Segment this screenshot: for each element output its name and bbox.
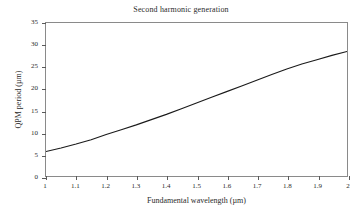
- x-axis-tick: [198, 176, 199, 180]
- series-line-qpm-period: [46, 23, 347, 176]
- chart-title: Second harmonic generation: [0, 5, 362, 14]
- y-axis-tick: [42, 112, 46, 113]
- y-axis-tick: [42, 134, 46, 135]
- y-axis-tick: [42, 67, 46, 68]
- x-axis-tick: [107, 176, 108, 180]
- x-axis-tick: [167, 176, 168, 180]
- x-axis-tick: [288, 176, 289, 180]
- x-axis-tick: [46, 176, 47, 180]
- y-axis-tick-label: 10: [0, 129, 38, 137]
- y-axis-tick-label: 5: [0, 151, 38, 159]
- x-axis-tick: [228, 176, 229, 180]
- x-axis-tick-label: 1.3: [121, 182, 151, 190]
- x-axis-tick: [76, 176, 77, 180]
- x-axis-tick-label: 1.8: [272, 182, 302, 190]
- y-axis-tick-label: 25: [0, 62, 38, 70]
- plot-frame: [45, 22, 348, 177]
- x-axis-title: Fundamental wavelength (µm): [45, 196, 348, 205]
- y-axis-tick-label: 30: [0, 40, 38, 48]
- x-axis-tick: [137, 176, 138, 180]
- plot-area: [46, 23, 347, 176]
- y-axis-tick-label: 15: [0, 107, 38, 115]
- x-axis-tick: [319, 176, 320, 180]
- x-axis-tick-label: 1.9: [303, 182, 333, 190]
- y-axis-tick-label: 0: [0, 173, 38, 181]
- x-axis-tick: [349, 176, 350, 180]
- y-axis-tick-label: 20: [0, 84, 38, 92]
- x-axis-tick-label: 1.2: [91, 182, 121, 190]
- y-axis-tick-label: 35: [0, 18, 38, 26]
- y-axis-tick: [42, 23, 46, 24]
- x-axis-tick: [258, 176, 259, 180]
- y-axis-tick: [42, 45, 46, 46]
- y-axis-tick: [42, 156, 46, 157]
- x-axis-tick-label: 1.4: [151, 182, 181, 190]
- x-axis-tick-label: 1.7: [242, 182, 272, 190]
- y-axis-tick: [42, 89, 46, 90]
- x-axis-tick-label: 1.1: [60, 182, 90, 190]
- x-axis-tick-label: 2: [333, 182, 362, 190]
- chart-figure: Second harmonic generation QPM period (µ…: [0, 0, 362, 216]
- x-axis-tick-label: 1: [30, 182, 60, 190]
- x-axis-tick-label: 1.6: [212, 182, 242, 190]
- x-axis-tick-label: 1.5: [182, 182, 212, 190]
